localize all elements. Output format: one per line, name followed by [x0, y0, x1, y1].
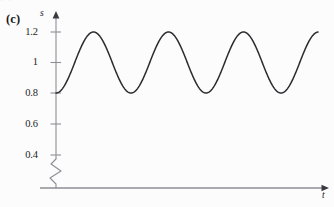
y-axis-arrow-icon [53, 11, 60, 19]
data-curve-sinusoid [56, 32, 318, 93]
axis-break-zigzag-icon [50, 159, 61, 188]
x-axis-arrow-icon [322, 185, 330, 191]
plot-canvas [0, 0, 334, 207]
figure-panel-c: (b) (c) s t 1.2 1 0.8 0.6 0.4 [0, 0, 334, 207]
